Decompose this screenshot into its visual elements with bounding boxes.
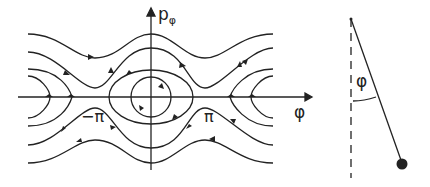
pendulum-angle-label: φ (356, 71, 367, 91)
p-axis-label: pφ (158, 4, 176, 27)
phase-portrait-diagram (0, 0, 430, 187)
tick-label-pi: π (204, 107, 214, 126)
pendulum-pivot (350, 18, 353, 21)
tick-label-neg-pi: −π (81, 107, 104, 126)
pendulum-bob (397, 159, 408, 170)
angle-arc (353, 97, 376, 101)
p-axis-arrow-icon (147, 8, 155, 16)
phi-axis-label: φ (294, 102, 305, 122)
phi-axis-arrow-icon (305, 93, 312, 101)
pendulum-rod (351, 19, 402, 163)
